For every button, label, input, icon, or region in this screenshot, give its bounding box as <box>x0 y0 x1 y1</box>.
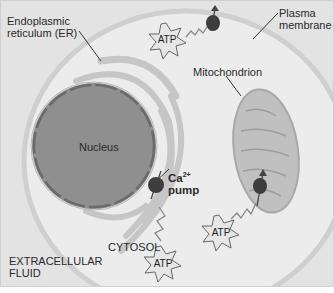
atp-label-mito: ATP <box>206 227 236 238</box>
nucleus-label: Nucleus <box>79 141 119 153</box>
plasma-membrane-label: Plasma membrane <box>279 7 332 31</box>
extracellular-line2: FLUID <box>9 267 103 279</box>
cytosol-label: CYTOSOL <box>108 241 160 253</box>
ca-pump-line1: Ca2+ <box>168 169 199 184</box>
er-label: Endoplasmic reticulum (ER) <box>7 15 77 39</box>
ca-pump-label: Ca2+ pump <box>168 169 199 196</box>
plasma-label-line2: membrane <box>279 19 332 31</box>
ca-text: Ca <box>168 172 183 184</box>
ca-superscript: 2+ <box>183 171 191 178</box>
atp-label-cytosol: ATP <box>148 258 178 269</box>
extracellular-fluid-label: EXTRACELLULAR FLUID <box>9 255 103 279</box>
atp-label-top: ATP <box>152 34 182 45</box>
ca-pump-line2: pump <box>168 184 199 196</box>
pump-top <box>206 5 220 31</box>
er-label-line2: reticulum (ER) <box>7 27 77 39</box>
diagram-frame: Endoplasmic reticulum (ER) Plasma membra… <box>0 0 334 287</box>
plasma-label-line1: Plasma <box>279 7 332 19</box>
extracellular-line1: EXTRACELLULAR <box>9 255 103 267</box>
er-label-line1: Endoplasmic <box>7 15 77 27</box>
mitochondrion-label: Mitochondrion <box>193 66 262 78</box>
